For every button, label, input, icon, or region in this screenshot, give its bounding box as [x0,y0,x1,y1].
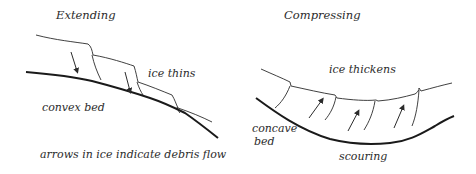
ice-thickens-label: ice thickens [329,64,396,75]
crevasse-line [364,101,375,130]
ice-thins-label: ice thins [148,68,195,79]
debris-flow-arrow [394,107,403,128]
crevasse-line [92,55,101,80]
crevasse-line [275,86,290,108]
concave-bed-line [256,98,454,144]
concave-bed-label-line1: concave [252,123,297,134]
debris-flow-arrow [71,52,77,71]
convex-bed-label: convex bed [42,102,105,113]
debris-flow-arrow [348,112,358,131]
crevasse-line [325,97,336,120]
crevasse-line [412,90,419,126]
concave-bed-label-line2: bed [254,136,275,147]
debris-flow-caption: arrows in ice indicate debris flow [40,149,226,160]
debris-flow-arrow [309,100,322,118]
extending-panel [26,35,218,138]
debris-flow-arrow [125,72,130,91]
compressing-title: Compressing [284,10,361,22]
scouring-label: scouring [339,151,387,162]
extending-title: Extending [56,10,116,22]
glacier-flow-diagram: Extending ice thins convex bed arrows in… [0,0,476,174]
